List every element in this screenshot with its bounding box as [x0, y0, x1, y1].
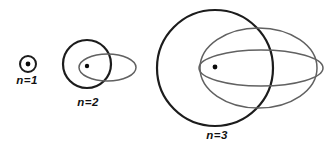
- n1-nucleus-dot: [26, 62, 31, 67]
- n3-orbit-ellipse-2: [199, 50, 323, 86]
- n2-label: n=2: [77, 96, 99, 108]
- n3-orbit-ellipse-1: [200, 28, 317, 108]
- n1-label: n=1: [16, 74, 38, 86]
- orbit-diagram: n=1n=2n=3: [0, 0, 334, 148]
- n2-nucleus-dot: [85, 64, 89, 68]
- orbit-diagram-canvas: n=1n=2n=3: [0, 0, 334, 148]
- n3-nucleus-dot: [213, 65, 218, 70]
- n3-label: n=3: [206, 129, 228, 141]
